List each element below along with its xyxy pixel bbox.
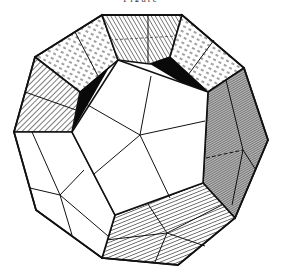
polyhedron-diagram	[0, 0, 282, 275]
